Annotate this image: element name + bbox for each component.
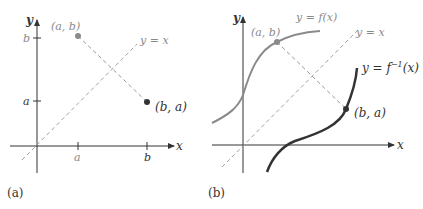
point-ba-label: (b, a) [354,106,386,120]
panel-b: y x y = f(x) y = x (a, b) (b, a) y = f−1… [208,11,419,200]
point-ab-label: (a, b) [251,26,280,39]
y-tick-label-b: b [23,32,30,45]
diagonal-label: y = x [355,26,385,39]
panel-b-caption: (b) [208,186,225,200]
point-ba-label: (b, a) [155,100,187,114]
point-ba [343,106,349,112]
x-axis-label: x [397,138,404,152]
point-ab [274,39,280,45]
f-curve [212,31,320,123]
diagonal-line [22,44,137,160]
point-ab-label: (a, b) [51,20,80,33]
x-axis-label: x [176,139,183,153]
f-label: y = f(x) [295,11,337,24]
x-tick-label-b: b [144,151,151,164]
y-tick-label-a: a [23,95,30,108]
f-inverse-curve [267,68,357,172]
point-ba [144,99,150,105]
point-ab [75,33,81,39]
panel-a: y x a b b a (a, b) (b, a) y = x (a) [7,13,187,200]
y-axis-label: y [232,11,241,25]
x-tick-label-a: a [74,151,81,164]
y-axis-label: y [25,13,34,27]
panel-a-caption: (a) [7,186,24,200]
f-inverse-label: y = f−1(x) [361,60,419,75]
diagonal-label: y = x [139,34,169,47]
inverse-function-diagram: y x a b b a (a, b) (b, a) y = x (a) y x … [0,0,423,209]
